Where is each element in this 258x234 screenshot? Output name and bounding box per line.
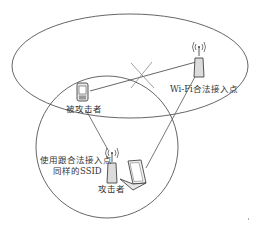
- diagram-canvas: [0, 0, 258, 234]
- legit-ap-label: Wi-Fi合法接入点: [170, 84, 238, 94]
- rogue-ap-label-line1: 使用跟合法接入点: [40, 155, 112, 165]
- legit-ap-coverage-ellipse: [12, 14, 248, 118]
- wifi-access-point-icon: [193, 42, 206, 77]
- phone-icon: [77, 83, 88, 101]
- rogue-ap-coverage-circle: [36, 76, 178, 218]
- rogue-ap-label-line2: 同样的SSID: [53, 166, 102, 176]
- stray-dot: [248, 218, 249, 220]
- x-mark-icon: [131, 62, 154, 88]
- attacker-label: 攻击者: [98, 184, 125, 194]
- evil-twin-diagram: 被攻击者 Wi-Fi合法接入点 使用跟合法接入点 同样的SSID 攻击者: [0, 0, 258, 234]
- rogue-access-point-icon: [106, 148, 119, 183]
- victim-label: 被攻击者: [66, 104, 102, 114]
